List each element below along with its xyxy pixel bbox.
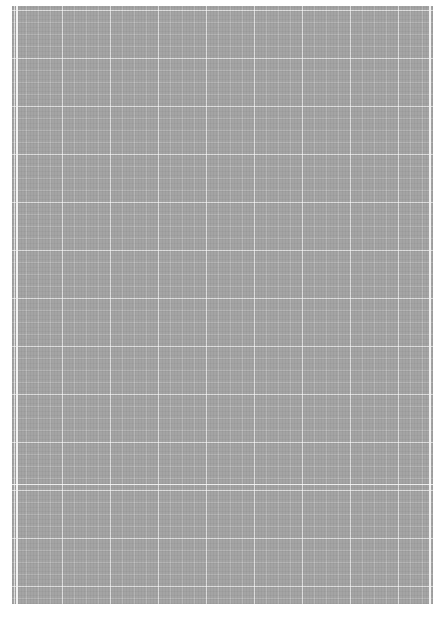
graph-paper-page bbox=[12, 6, 433, 604]
scan-texture bbox=[12, 6, 433, 604]
grid-major-line bbox=[12, 484, 433, 485]
right-margin-line bbox=[429, 6, 431, 604]
left-margin-line bbox=[16, 6, 18, 604]
